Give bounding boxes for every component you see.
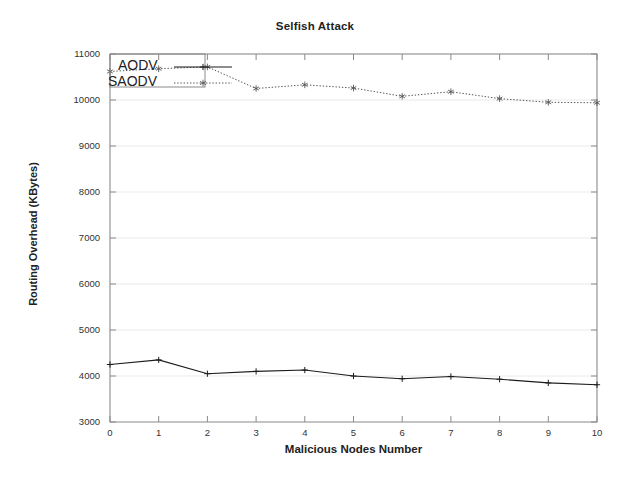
chart-figure: Selfish Attack Routing Overhead (KBytes)… (0, 0, 630, 480)
plot-canvas (0, 0, 630, 480)
series-line (110, 360, 597, 385)
legend-label-aodv: AODV (118, 57, 158, 73)
legend-label-saodv: SAODV (108, 73, 157, 89)
series-aodv (107, 357, 600, 388)
